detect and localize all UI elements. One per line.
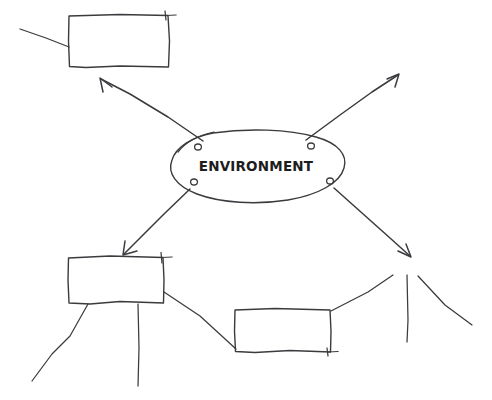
connector-to-top-left-box-arrowhead: [100, 78, 112, 92]
connector-to-bottom-right-open-line: [334, 188, 410, 256]
connector-to-top-right-open-line: [306, 75, 398, 140]
connector-to-top-left-box-line: [101, 79, 203, 141]
bottom-center-box-outline: [235, 309, 332, 353]
node-top-left-box[interactable]: [69, 11, 177, 68]
bottom-center-box-corner-tick-h: [328, 352, 338, 353]
connector-to-top-left-box: [100, 78, 203, 141]
diagram-canvas: ENVIRONMENT: [0, 0, 492, 400]
stub-bottom-right-fan-vertical: [407, 275, 408, 342]
stub-bottom-left-box-down-a: [32, 304, 88, 381]
bottom-left-box-outline: [68, 256, 164, 304]
node-bottom-center-box[interactable]: [235, 309, 339, 357]
stub-bottom-left-box-down-b: [138, 304, 139, 386]
bottom-left-box-corner-tick-h: [162, 257, 172, 258]
top-left-box-corner-tick-h: [166, 15, 176, 16]
connector-to-bottom-right-open: [334, 188, 411, 257]
connector-to-bottom-left-box-line: [124, 189, 190, 254]
stub-bottom-center-box-up-right: [331, 275, 393, 311]
connector-left-box-to-center-box: [164, 292, 236, 349]
center-node-label: ENVIRONMENT: [199, 158, 314, 174]
node-center-environment[interactable]: ENVIRONMENT: [171, 130, 345, 203]
connector-to-bottom-left-box: [123, 189, 190, 255]
node-bottom-left-box[interactable]: [68, 253, 172, 305]
connector-to-top-right-open: [306, 74, 399, 140]
stub-top-left-box-left: [20, 29, 69, 47]
mind-map-drawing: ENVIRONMENT: [0, 0, 492, 400]
stub-bottom-right-fan-diagonal: [418, 276, 472, 325]
top-left-box-outline: [69, 15, 170, 68]
